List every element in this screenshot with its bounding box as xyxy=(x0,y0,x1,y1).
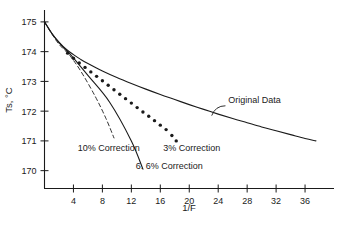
y-tick-label: 173 xyxy=(21,77,36,87)
series-dotted-markers xyxy=(66,51,178,142)
data-point-marker xyxy=(101,79,104,82)
data-point-marker xyxy=(112,88,115,91)
x-tick-label: 4 xyxy=(71,196,76,206)
data-point-marker xyxy=(89,70,92,73)
data-point-marker xyxy=(130,101,133,104)
ten-percent-correction-label: 10% Correction xyxy=(78,143,140,153)
series-solid-line xyxy=(45,22,316,141)
y-tick-label: 170 xyxy=(21,166,36,176)
data-point-marker xyxy=(118,92,121,95)
data-point-marker xyxy=(141,110,144,113)
x-tick-label: 16 xyxy=(155,196,165,206)
data-point-marker xyxy=(147,115,150,118)
x-tick-label: 32 xyxy=(271,196,281,206)
x-tick-label: 8 xyxy=(100,196,105,206)
y-tick-label: 172 xyxy=(21,107,36,117)
x-axis-title: 1/F xyxy=(182,202,196,213)
x-tick-label: 36 xyxy=(300,196,310,206)
data-point-marker xyxy=(124,97,127,100)
original-data-label: Original Data xyxy=(228,95,281,105)
x-tick-label: 28 xyxy=(242,196,252,206)
three-percent-correction-label: 3% Correction xyxy=(163,143,220,153)
x-tick-label: 24 xyxy=(213,196,223,206)
x-tick-label: 12 xyxy=(126,196,136,206)
data-point-marker xyxy=(164,128,167,131)
y-tick-label: 174 xyxy=(21,47,36,57)
chart-canvas: 170171172173174175 4812162024283236 Orig… xyxy=(0,0,341,226)
annotation-labels: Original Data3% Correction10% Correction… xyxy=(78,95,281,170)
data-point-marker xyxy=(95,75,98,78)
data-point-marker xyxy=(106,84,109,87)
chart-figure: 170171172173174175 4812162024283236 Orig… xyxy=(0,0,341,226)
y-tick-label: 171 xyxy=(21,136,36,146)
six-point-six-percent-correction-label: 6. 6% Correction xyxy=(136,161,203,171)
data-point-marker xyxy=(83,66,86,69)
data-point-marker xyxy=(159,123,162,126)
data-point-marker xyxy=(153,119,156,122)
data-point-marker xyxy=(170,134,173,137)
y-axis-title: Ts, °C xyxy=(3,87,14,113)
data-point-marker xyxy=(135,106,138,109)
y-tick-label: 175 xyxy=(21,17,36,27)
